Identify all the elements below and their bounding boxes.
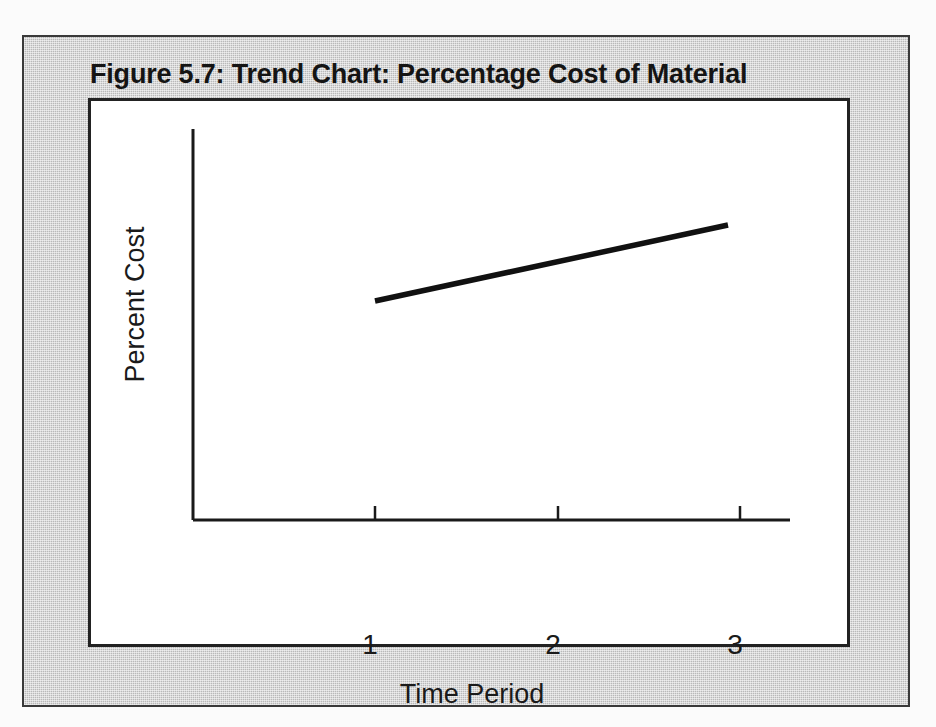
x-tick-label-3: 3 xyxy=(705,629,765,661)
figure-title: Figure 5.7: Trend Chart: Percentage Cost… xyxy=(90,53,880,95)
figure-panel: Figure 5.7: Trend Chart: Percentage Cost… xyxy=(22,35,910,707)
x-axis-title: Time Period xyxy=(292,679,652,710)
trend-line xyxy=(375,225,728,301)
plot-panel: 1 2 3 Time Period Percent Cost xyxy=(88,98,850,647)
x-tick-label-1: 1 xyxy=(340,629,400,661)
trend-chart-graphic xyxy=(91,101,847,644)
page-canvas: Figure 5.7: Trend Chart: Percentage Cost… xyxy=(0,0,936,727)
plot-area: 1 2 3 Time Period Percent Cost xyxy=(91,101,847,644)
y-axis-title: Percent Cost xyxy=(120,175,151,435)
x-tick-label-2: 2 xyxy=(523,629,583,661)
